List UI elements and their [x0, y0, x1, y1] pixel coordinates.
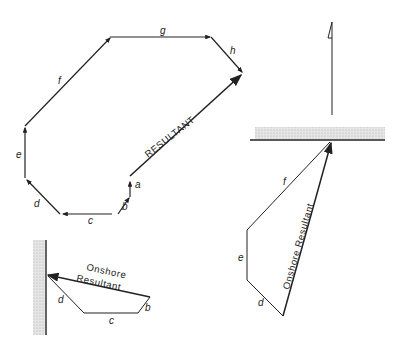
resultant-label: RESULTANT: [142, 114, 196, 160]
polygon-labels: a b c d e f g h RESULTANT: [16, 25, 236, 226]
label-e: e: [16, 149, 22, 160]
label-h: h: [230, 45, 236, 56]
vector-polygon: [25, 37, 242, 214]
label-g: g: [160, 25, 166, 36]
label-f: f: [58, 75, 62, 86]
label-d: d: [34, 198, 40, 209]
label-f-right: f: [283, 176, 287, 187]
label-b-small: b: [145, 302, 151, 313]
label-d-small: d: [58, 294, 64, 305]
label-a: a: [135, 179, 141, 190]
shore-shading: [255, 127, 385, 139]
label-c-small: c: [109, 315, 114, 326]
label-e-right: e: [238, 252, 244, 263]
north-arrow: [328, 22, 332, 115]
label-b: b: [122, 201, 128, 212]
vector-diagram: a b c d e f g h RESULTANT d e f Onshore …: [0, 0, 403, 340]
label-d-right: d: [258, 297, 264, 308]
onshore-resultant-label-right: Onshore Resultant: [280, 202, 315, 291]
label-c: c: [88, 215, 93, 226]
shore-shading-left: [33, 240, 45, 335]
